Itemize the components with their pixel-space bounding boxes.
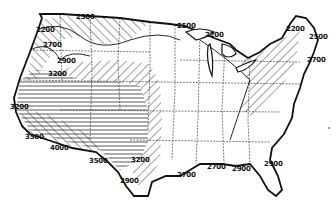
stray-dot — [328, 127, 330, 129]
contour-label: 2700 — [307, 57, 326, 64]
contour-label: 2900 — [264, 161, 283, 168]
contour-label: 2900 — [232, 166, 251, 173]
contour-label: 2500 — [309, 34, 328, 41]
contour-label: 4000 — [50, 145, 69, 152]
contour-label: 3500 — [89, 158, 108, 165]
contour-label: 3500 — [25, 134, 44, 141]
contour-label: 2900 — [57, 58, 76, 65]
contour-label: 2700 — [177, 172, 196, 179]
lake-huron — [222, 44, 236, 57]
zone-appalachian — [240, 30, 300, 116]
contour-label: 2500 — [177, 23, 196, 30]
contour-label: 2200 — [36, 27, 55, 34]
contour-label: 2900 — [120, 178, 139, 185]
contour-label: 2200 — [286, 26, 305, 33]
contour-label: 3200 — [48, 71, 67, 78]
lake-michigan — [208, 44, 213, 76]
contour-label: 2700 — [43, 42, 62, 49]
contour-label: 2500 — [76, 14, 95, 21]
contour-label: 2700 — [207, 164, 226, 171]
contour-label: 3200 — [131, 157, 150, 164]
contour-label: 2200 — [205, 32, 224, 39]
contour-label: 3200 — [10, 104, 29, 111]
